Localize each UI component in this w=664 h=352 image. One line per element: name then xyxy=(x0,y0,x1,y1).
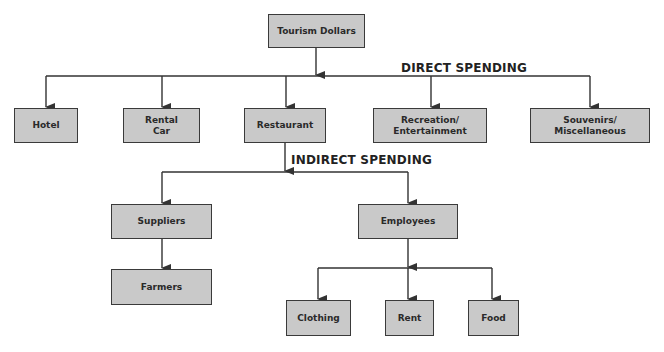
node-rent: Rent xyxy=(385,300,434,336)
node-label: Employees xyxy=(381,216,436,227)
node-farmers: Farmers xyxy=(111,269,212,305)
indirect-spending-label: INDIRECT SPENDING xyxy=(291,153,432,167)
node-rental-car: Rental Car xyxy=(123,108,200,143)
node-employees: Employees xyxy=(358,204,458,239)
node-suppliers: Suppliers xyxy=(111,204,212,239)
node-restaurant: Restaurant xyxy=(244,108,326,143)
node-label: Restaurant xyxy=(257,120,313,131)
node-label: Rental Car xyxy=(145,115,178,137)
node-label: Recreation/ Entertainment xyxy=(393,115,466,137)
direct-spending-label: DIRECT SPENDING xyxy=(401,61,527,75)
node-souvenirs-miscellaneous: Souvenirs/ Miscellaneous xyxy=(530,108,650,143)
node-label: Rent xyxy=(398,313,422,324)
node-recreation-entertainment: Recreation/ Entertainment xyxy=(373,108,487,143)
node-label: Tourism Dollars xyxy=(277,26,356,37)
node-clothing: Clothing xyxy=(286,300,351,336)
node-label: Souvenirs/ Miscellaneous xyxy=(554,115,626,137)
node-label: Suppliers xyxy=(138,216,186,227)
node-label: Clothing xyxy=(297,313,340,324)
node-hotel: Hotel xyxy=(14,108,78,143)
node-food: Food xyxy=(468,300,519,336)
node-label: Food xyxy=(481,313,506,324)
node-label: Farmers xyxy=(141,282,182,293)
node-tourism-dollars: Tourism Dollars xyxy=(268,14,365,48)
node-label: Hotel xyxy=(32,120,59,131)
